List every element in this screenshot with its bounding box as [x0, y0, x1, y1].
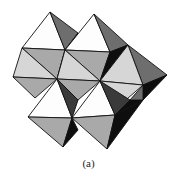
octahedra-diagram — [0, 0, 177, 182]
figure-caption: (a) — [0, 157, 177, 169]
